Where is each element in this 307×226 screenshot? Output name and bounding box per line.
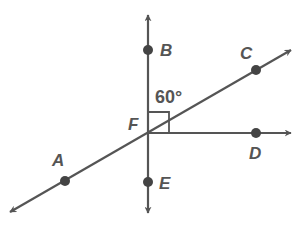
label-e: E — [159, 174, 171, 193]
label-f: F — [128, 115, 139, 134]
label-a: A — [51, 151, 64, 170]
line-ac — [10, 50, 291, 212]
point-c — [251, 65, 261, 75]
geometry-diagram: A B C D E F 60° — [0, 0, 307, 226]
point-d — [251, 128, 261, 138]
label-b: B — [160, 41, 172, 60]
angle-label: 60° — [155, 87, 182, 107]
point-a — [60, 176, 70, 186]
point-e — [143, 177, 153, 187]
point-b — [143, 45, 153, 55]
label-c: C — [240, 44, 253, 63]
label-d: D — [249, 144, 261, 163]
